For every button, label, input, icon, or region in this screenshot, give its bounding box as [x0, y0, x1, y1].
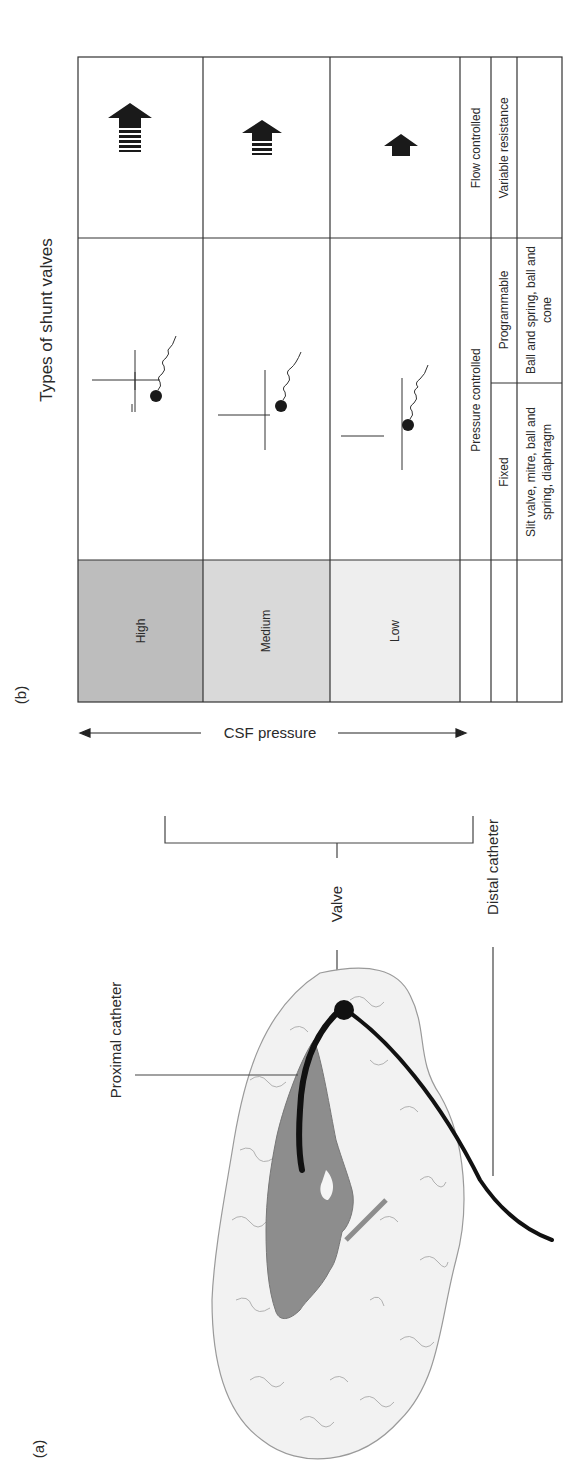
- valve-dot: [334, 1000, 354, 1020]
- programmable-examples-line2: cone: [540, 297, 554, 323]
- panel-b-title: Types of shunt valves: [37, 238, 56, 401]
- ball-spring-valve-icon-low: [341, 365, 428, 470]
- flow-controlled-label: Flow controlled: [469, 108, 483, 189]
- figure-canvas: (b) Types of shunt valves High Medium Lo…: [0, 0, 584, 1475]
- ball-spring-valve-icon-medium: [218, 352, 301, 450]
- panel-a-label: (a): [30, 1440, 47, 1458]
- csf-pressure-label-horizontal: CSF pressure: [224, 724, 317, 741]
- high-flow-arrow-icon: [108, 103, 152, 152]
- proximal-catheter-label: Proximal catheter: [107, 982, 124, 1099]
- ball-spring-valve-icon-high: [92, 336, 176, 412]
- fixed-label: Fixed: [497, 457, 511, 486]
- fixed-examples-line2: spring, diaphragm: [540, 424, 554, 520]
- panel-a: (a) Valve: [30, 816, 552, 1459]
- medium-flow-arrow-icon: [242, 120, 282, 155]
- panel-b-label: (b): [12, 686, 29, 704]
- pressure-label-low: Low: [388, 620, 402, 642]
- pressure-label-high: High: [134, 619, 148, 644]
- pressure-label-medium: Medium: [259, 610, 273, 653]
- variable-resistance-label: Variable resistance: [497, 97, 511, 198]
- distal-catheter-label: Distal catheter: [484, 819, 501, 915]
- pressure-controlled-label: Pressure controlled: [469, 348, 483, 451]
- fixed-examples-line1: Slit valve, mitre, ball and: [524, 407, 538, 537]
- programmable-examples-line1: Ball and spring, ball and: [524, 246, 538, 374]
- low-flow-arrow-icon: [384, 134, 418, 156]
- valve-label: Valve: [328, 886, 345, 922]
- programmable-label: Programmable: [497, 270, 511, 349]
- panel-b: (b) Types of shunt valves High Medium Lo…: [12, 57, 562, 741]
